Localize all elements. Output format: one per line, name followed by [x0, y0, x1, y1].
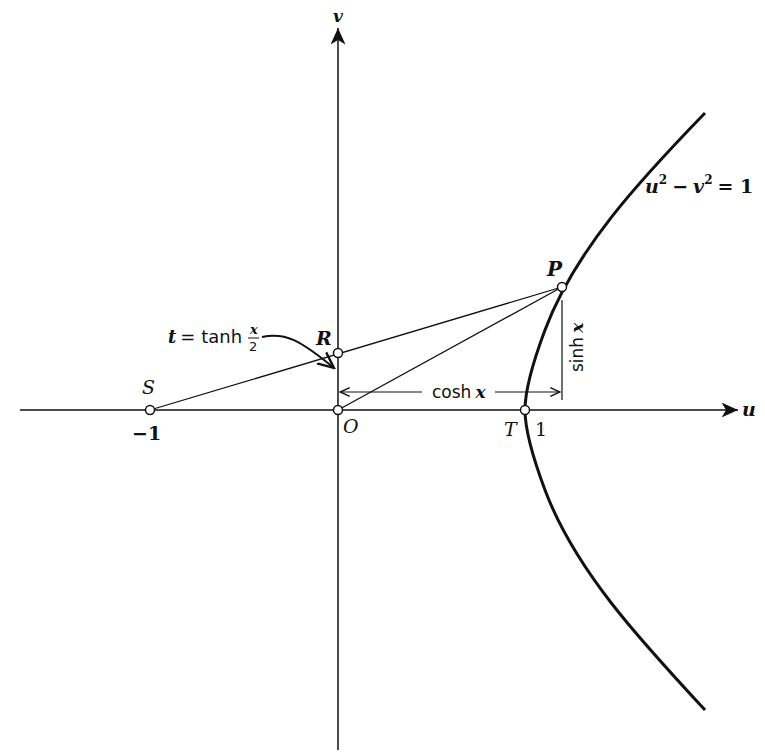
- t-definition-numerator: x: [249, 322, 258, 337]
- point-s: [146, 406, 155, 415]
- label-o: O: [343, 415, 359, 437]
- t-definition-label: t= tanh: [168, 326, 242, 347]
- label-t: T: [504, 418, 518, 440]
- curve-equation: u2−v2= 1: [645, 173, 753, 197]
- label-s: S: [142, 376, 155, 398]
- cosh-label: coshx: [432, 382, 486, 402]
- u-axis-label: u: [742, 398, 756, 420]
- label-t-coord: 1: [535, 418, 547, 440]
- v-axis-label: v: [333, 6, 344, 26]
- point-r: [334, 349, 343, 358]
- point-t: [521, 406, 530, 415]
- sinh-label: sinhx: [567, 322, 587, 372]
- hyperbola-diagram: u v sinhx coshx t= tanh x 2 u2−v2= 1 S −…: [0, 0, 765, 756]
- label-s-coord: −1: [132, 422, 161, 444]
- t-definition-denominator: 2: [249, 339, 257, 354]
- label-p: P: [546, 257, 563, 281]
- label-r: R: [315, 327, 332, 349]
- point-o: [334, 406, 343, 415]
- point-p: [558, 283, 567, 292]
- hyperbola-curve: [525, 113, 705, 710]
